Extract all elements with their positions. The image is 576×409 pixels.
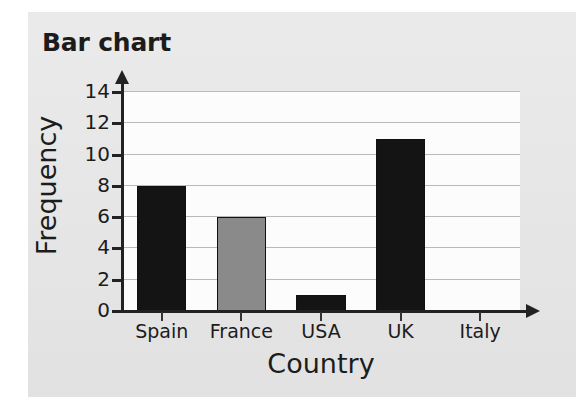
y-axis-tick-label: 0 — [70, 298, 110, 322]
y-axis-tick — [112, 91, 122, 94]
bar-spain[interactable] — [137, 186, 186, 311]
y-axis-title: Frequency — [31, 96, 62, 276]
chart-page: Bar chart 02468101214 SpainFranceUSAUKIt… — [0, 0, 576, 409]
y-axis-arrow-icon — [115, 70, 129, 84]
y-axis-tick-label: 8 — [70, 173, 110, 197]
x-axis-tick-label-usa: USA — [301, 320, 340, 342]
bar-usa[interactable] — [296, 295, 345, 311]
page-title: Bar chart — [42, 28, 171, 57]
y-axis-tick-label: 12 — [70, 110, 110, 134]
bar-france[interactable] — [217, 217, 266, 311]
x-axis-tick-label-spain: Spain — [135, 320, 188, 342]
y-axis-tick-label: 6 — [70, 204, 110, 228]
y-axis-tick-label: 10 — [70, 142, 110, 166]
x-axis-tick-label-italy: Italy — [460, 320, 501, 342]
y-axis-tick — [112, 154, 122, 157]
x-axis-arrow-icon — [526, 304, 540, 318]
gridline — [122, 154, 520, 155]
x-axis-tick-label-france: France — [210, 320, 273, 342]
y-axis-tick-label: 14 — [70, 79, 110, 103]
y-axis-tick — [112, 216, 122, 219]
y-axis-tick — [112, 122, 122, 125]
gridline — [122, 122, 520, 123]
plot-area — [122, 92, 520, 311]
y-axis-tick — [112, 247, 122, 250]
x-axis-title: Country — [122, 348, 520, 379]
y-axis-tick — [112, 185, 122, 188]
x-axis-tick-label-uk: UK — [387, 320, 413, 342]
gridline — [122, 91, 520, 92]
y-axis-tick-label: 4 — [70, 235, 110, 259]
bar-uk[interactable] — [376, 139, 425, 311]
y-axis-tick-label: 2 — [70, 267, 110, 291]
x-axis-line — [122, 310, 528, 313]
y-axis-tick — [112, 279, 122, 282]
y-axis-tick — [112, 310, 122, 313]
